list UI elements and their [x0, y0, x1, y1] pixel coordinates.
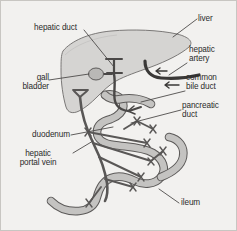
leader-common-bile-duct — [141, 91, 185, 102]
gall-bladder-shape — [89, 68, 104, 80]
hepatic-artery-arrow-2 — [165, 82, 179, 88]
label-pancreatic-duct-line1: pancreatic — [182, 101, 219, 110]
label-hepatic-artery-line2: artery — [189, 54, 209, 63]
label-pancreatic-duct: pancreatic duct — [182, 101, 219, 120]
label-hepatic-artery-line1: hepatic — [189, 45, 215, 54]
anatomy-diagram: hepatic duct liver hepatic artery common… — [0, 0, 237, 231]
label-common-bile-duct-line1: common — [186, 73, 217, 82]
leader-hepatic-artery — [169, 63, 187, 75]
label-duodenum: duodenum — [1, 130, 70, 139]
label-hepatic-portal-vein: hepatic portal vein — [2, 149, 74, 168]
label-gall-bladder-line2: bladder — [22, 82, 49, 91]
leader-duodenum — [71, 127, 113, 135]
label-common-bile-duct-line2: bile duct — [186, 82, 216, 91]
label-ileum: ileum — [181, 198, 200, 207]
leader-hepatic-portal-vein — [73, 141, 93, 153]
label-gall-bladder-line1: gall — [37, 73, 49, 82]
label-hepatic-portal-vein-line1: hepatic — [25, 149, 51, 158]
label-hepatic-artery: hepatic artery — [189, 45, 215, 64]
hepatic-artery-arrow-1 — [156, 68, 167, 74]
label-gall-bladder: gall bladder — [1, 73, 49, 92]
label-common-bile-duct: common bile duct — [186, 73, 217, 92]
label-pancreatic-duct-line2: duct — [182, 110, 197, 119]
leader-ileum — [159, 189, 179, 203]
label-hepatic-portal-vein-line2: portal vein — [20, 158, 57, 167]
leader-liver — [173, 19, 197, 37]
label-liver: liver — [198, 14, 213, 23]
label-hepatic-duct: hepatic duct — [34, 23, 77, 32]
leader-pancreatic-duct — [131, 110, 181, 123]
